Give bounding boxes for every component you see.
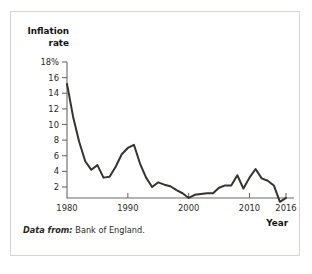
y-tick-label: 14 xyxy=(48,88,59,98)
x-axis-ticks: 19801990200020102016 xyxy=(56,193,296,213)
y-tick-label: 10 xyxy=(48,120,59,130)
x-tick-label: 2016 xyxy=(275,203,296,213)
inflation-rate-line-chart: 18%161412108642 19801990200020102016 Inf… xyxy=(11,12,301,257)
y-axis-title-line-2: rate xyxy=(49,38,69,48)
x-tick-label: 2010 xyxy=(239,203,260,213)
x-axis-title: Year xyxy=(265,218,288,228)
source-note-body: Bank of England. xyxy=(75,225,145,235)
y-tick-label: 6 xyxy=(54,151,59,161)
source-note-lead: Data from: xyxy=(23,225,73,235)
series-group xyxy=(67,84,286,202)
axis-lines xyxy=(67,62,294,198)
y-tick-label: 8 xyxy=(54,135,59,145)
source-note: Data from: Bank of England. xyxy=(23,225,145,235)
y-tick-label: 16 xyxy=(48,73,59,83)
y-axis-title-line-1: Inflation xyxy=(27,26,69,36)
y-tick-label: 12 xyxy=(48,104,59,114)
x-tick-label: 2000 xyxy=(178,203,199,213)
y-axis-ticks: 18%161412108642 xyxy=(40,57,67,192)
axes-group xyxy=(67,62,294,198)
y-tick-label: 2 xyxy=(54,182,59,192)
y-tick-label: 4 xyxy=(54,166,59,176)
x-tick-label: 1990 xyxy=(117,203,138,213)
x-tick-label: 1980 xyxy=(56,203,77,213)
series-line-inflation-rate xyxy=(67,84,286,202)
chart-plot-area: 18%161412108642 19801990200020102016 Inf… xyxy=(11,12,301,257)
y-tick-label: 18% xyxy=(40,57,59,67)
figure-card: 18%161412108642 19801990200020102016 Inf… xyxy=(10,11,300,256)
